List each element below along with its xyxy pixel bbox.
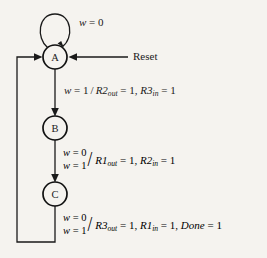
ab-eq-2: = <box>120 84 126 96</box>
state-node-b[interactable]: B <box>43 116 67 140</box>
state-b-label: B <box>51 123 58 134</box>
bc-out2-base: R2 <box>140 154 152 166</box>
bc-out2-val: 1 <box>170 154 176 166</box>
bc-condition-rows: w = 0 w = 1 <box>63 147 86 173</box>
bc-outputs: R1out = 1, R2in = 1 <box>95 154 175 166</box>
ca-out3-base: Done <box>181 219 205 231</box>
state-c-label: C <box>51 189 58 200</box>
ca-row1-var: w <box>63 212 70 223</box>
ca-row1-val: 0 <box>81 212 86 223</box>
transition-a-b-label: w = 1/R2out = 1, R3in = 1 <box>64 84 176 97</box>
ca-eq-1: = <box>120 219 126 231</box>
feedback-arrowhead <box>34 53 43 61</box>
ab-eq-3: = <box>161 84 167 96</box>
bc-eq-2: = <box>161 154 167 166</box>
ca-outputs: R3out = 1, R1in = 1, Done = 1 <box>95 219 222 231</box>
bc-out1-base: R1 <box>95 154 107 166</box>
ca-condition-row-1: w = 0 <box>63 212 86 225</box>
bc-row1-var: w <box>63 147 70 158</box>
transition-a-to-a-self-loop <box>40 14 69 48</box>
self-loop-value: 0 <box>98 16 104 28</box>
ab-out2-base: R3 <box>140 84 152 96</box>
transition-a-to-b <box>51 69 59 117</box>
bc-row1-eq: = <box>73 147 79 158</box>
bc-row1-val: 0 <box>81 147 86 158</box>
ca-condition-rows: w = 0 w = 1 <box>63 212 86 238</box>
ca-out2-base: R1 <box>140 219 152 231</box>
bc-slash: / <box>88 149 93 170</box>
ca-out3-val: 1 <box>216 219 222 231</box>
reset-arrowhead <box>69 53 78 61</box>
ca-out2-sub: in <box>152 224 158 233</box>
transition-c-a-label: w = 0 w = 1 / R3out = 1, R1in = 1, Done … <box>63 212 222 238</box>
self-loop-label: w = 0 <box>79 16 104 29</box>
ca-row1-eq: = <box>73 212 79 223</box>
ab-cond-val: 1 <box>83 84 89 96</box>
transition-b-to-c <box>51 140 59 183</box>
ab-out1-sub: out <box>108 89 118 98</box>
state-node-c[interactable]: C <box>43 182 67 206</box>
ca-out1-sub: out <box>108 224 118 233</box>
self-loop-eq: = <box>86 16 98 28</box>
ab-out2-val: 1 <box>170 84 176 96</box>
ab-out1-base: R2 <box>96 84 108 96</box>
bc-eq-1: = <box>120 154 126 166</box>
bc-row2-eq: = <box>73 160 79 171</box>
ab-slash: / <box>91 84 94 96</box>
ca-row2-val: 1 <box>81 225 86 236</box>
state-a-label: A <box>51 52 59 63</box>
ab-cond-var: w <box>64 84 71 96</box>
reset-label: Reset <box>133 50 157 63</box>
reset-input-arrow <box>69 53 129 61</box>
bc-out2-sub: in <box>152 159 158 168</box>
ca-slash: / <box>88 214 93 235</box>
self-loop-path <box>40 14 69 48</box>
bc-condition-row-1: w = 0 <box>63 147 86 160</box>
fsm-diagram-canvas: A B C w = 0 Reset w = 1/R2out = 1, R3in … <box>0 0 267 258</box>
transition-c-to-a-feedback <box>17 53 55 242</box>
ca-out1-base: R3 <box>95 219 107 231</box>
ca-condition-row-2: w = 1 <box>63 225 86 238</box>
ca-row2-eq: = <box>73 225 79 236</box>
ca-eq-2: = <box>161 219 167 231</box>
bc-out1-sub: out <box>108 159 118 168</box>
bc-condition-row-2: w = 1 <box>63 160 86 173</box>
ca-eq-3: = <box>207 219 213 231</box>
feedback-path <box>17 57 55 242</box>
bc-row2-val: 1 <box>81 160 86 171</box>
transition-b-c-label: w = 0 w = 1 / R1out = 1, R2in = 1 <box>63 147 175 173</box>
ab-eq-1: = <box>74 84 80 96</box>
bc-row2-var: w <box>63 160 70 171</box>
ca-row2-var: w <box>63 225 70 236</box>
state-node-a[interactable]: A <box>43 45 67 69</box>
ab-out2-sub: in <box>153 89 159 98</box>
